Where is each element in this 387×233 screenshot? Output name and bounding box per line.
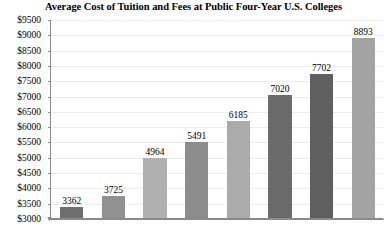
x-axis — [50, 219, 384, 220]
bar[interactable] — [60, 207, 83, 218]
bar[interactable] — [268, 95, 291, 218]
bar-group[interactable]: 4964 — [143, 19, 166, 218]
y-axis-tick-label: $4500 — [17, 168, 41, 178]
bar-group[interactable]: 7020 — [268, 19, 291, 218]
bar-value-label: 3362 — [62, 196, 81, 206]
bar[interactable] — [352, 38, 375, 218]
bar-group[interactable]: 7702 — [310, 19, 333, 218]
bar-value-label: 7020 — [270, 84, 289, 94]
bar[interactable] — [185, 142, 208, 218]
bar-value-label: 6185 — [229, 110, 248, 120]
y-axis-tick-label: $3500 — [17, 199, 41, 209]
y-axis-tick-label: $5000 — [17, 153, 41, 163]
bar-group[interactable]: 6185 — [227, 19, 250, 218]
bar-value-label: 8893 — [354, 27, 373, 37]
bar-group[interactable]: 3725 — [102, 19, 125, 218]
bar-value-label: 5491 — [187, 131, 206, 141]
y-axis-tick-label: $5500 — [17, 137, 41, 147]
bar-value-label: 4964 — [146, 147, 165, 157]
y-axis-tick-label: $8500 — [17, 46, 41, 56]
y-axis-tick-label: $7000 — [17, 92, 41, 102]
origin-tick-icon: ▼ — [46, 216, 52, 222]
bar-value-label: 7702 — [312, 63, 331, 73]
bar[interactable] — [143, 158, 166, 218]
bar-group[interactable]: 8893 — [352, 19, 375, 218]
y-axis-tick-label: $9500 — [17, 15, 41, 25]
y-axis-tick-label: $6500 — [17, 107, 41, 117]
bar-value-label: 3725 — [104, 185, 123, 195]
bar[interactable] — [310, 74, 333, 218]
bar[interactable] — [227, 121, 250, 219]
chart-title: Average Cost of Tuition and Fees at Publ… — [0, 1, 387, 12]
bar-group[interactable]: 5491 — [185, 19, 208, 218]
bar[interactable] — [102, 196, 125, 218]
bars-layer: 33623725496454916185702077028893 — [51, 20, 383, 218]
y-axis-tick-label: $9000 — [17, 30, 41, 40]
y-axis-tick-label: $4000 — [17, 183, 41, 193]
y-axis: $3000$3500$4000$4500$5000$5500$6000$6500… — [0, 20, 48, 219]
bar-group[interactable]: 3362 — [60, 19, 83, 218]
y-axis-tick-label: $3000 — [17, 214, 41, 224]
y-axis-tick-label: $8000 — [17, 61, 41, 71]
bar-chart: Average Cost of Tuition and Fees at Publ… — [0, 0, 387, 233]
y-axis-tick-label: $7500 — [17, 76, 41, 86]
plot-area: 33623725496454916185702077028893 — [50, 20, 383, 219]
y-axis-tick-label: $6000 — [17, 122, 41, 132]
